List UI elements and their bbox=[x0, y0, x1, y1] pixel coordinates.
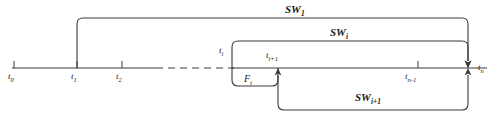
tick-label-t0: t0 bbox=[8, 72, 14, 83]
window-label-swi: SWi bbox=[330, 27, 348, 41]
window-label-sw1: SW1 bbox=[285, 4, 305, 18]
axis-tick-marks bbox=[14, 61, 418, 68]
tick-label-t2: t2 bbox=[116, 72, 122, 83]
swi-arrowhead bbox=[465, 61, 472, 69]
sliding-window-timeline-figure: t0 t1 t2 ti ti+1 tn-1 tn SW1 SWi SWi+1 F… bbox=[0, 0, 500, 119]
frame-label-fi: Fi bbox=[244, 74, 252, 87]
diagram-canvas bbox=[0, 0, 500, 119]
swi1-arrowhead bbox=[465, 68, 472, 76]
frame-box-fi bbox=[232, 68, 281, 86]
tick-label-ti-plus-1: ti+1 bbox=[266, 51, 278, 62]
window-label-swi-plus-1: SWi+1 bbox=[355, 92, 381, 106]
tick-label-t1: t1 bbox=[71, 72, 77, 83]
tick-label-tn: tn bbox=[478, 63, 484, 74]
tick-label-ti: ti bbox=[219, 46, 223, 57]
tick-label-tn-minus-1: tn-1 bbox=[405, 72, 416, 83]
